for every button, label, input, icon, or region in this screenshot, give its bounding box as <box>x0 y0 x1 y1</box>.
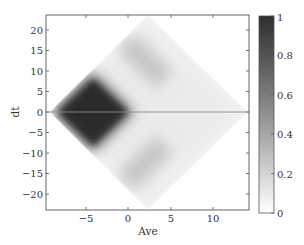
y-tick-label: 10 <box>30 66 43 77</box>
y-tick-label: −10 <box>22 148 43 159</box>
y-tick-label: 20 <box>30 25 43 36</box>
colorbar <box>259 16 274 213</box>
colorbar-tick-label: 0.4 <box>277 129 293 140</box>
y-tick-label: −15 <box>22 168 43 179</box>
y-axis-label: dt <box>9 106 21 118</box>
x-tick-label: 10 <box>207 213 220 224</box>
colorbar-tick-label: 0.6 <box>277 90 293 101</box>
y-tick-label: 0 <box>37 107 43 118</box>
colorbar-tick-label: 0 <box>277 208 283 219</box>
heatmap-chart: −5 0 5 10 Ave 20 15 10 5 0 −5 −10 −15 −2… <box>0 0 304 245</box>
colorbar-tick-label: 1 <box>277 12 283 23</box>
y-tick-label: −5 <box>28 127 43 138</box>
x-tick-label: 0 <box>125 213 131 224</box>
y-tick-label: −20 <box>22 189 43 200</box>
y-tick-label: 15 <box>30 45 43 56</box>
y-tick-label: 5 <box>37 86 43 97</box>
plot-area <box>46 15 249 210</box>
colorbar-tick-label: 0.8 <box>277 50 293 61</box>
x-tick-label: 5 <box>168 213 174 224</box>
x-axis-label: Ave <box>137 225 157 237</box>
x-tick-label: −5 <box>79 213 94 224</box>
colorbar-tick-label: 0.2 <box>277 169 293 180</box>
